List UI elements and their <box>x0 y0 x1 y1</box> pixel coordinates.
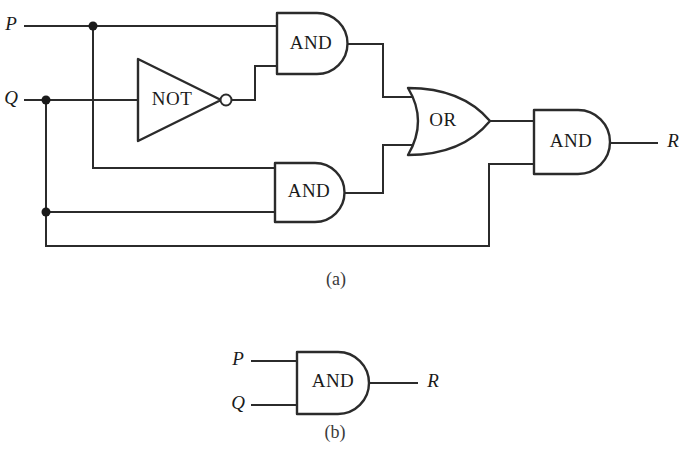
part-b-input-p-label: P <box>231 348 244 369</box>
junction-dot-q-lower <box>42 208 51 217</box>
part-b-input-q-label: Q <box>231 392 245 413</box>
part-a-input-q-label: Q <box>4 87 18 108</box>
or-gate-label: OR <box>429 109 456 130</box>
and-gate-b-label: AND <box>312 370 355 391</box>
part-b-output-r-label: R <box>426 370 439 391</box>
not-gate-bubble-icon <box>221 95 232 106</box>
part-a-input-p-label: P <box>4 13 17 34</box>
not-gate-label: NOT <box>152 88 193 109</box>
and-gate-output-label: AND <box>550 130 593 151</box>
part-a-group: P Q NOT AND <box>4 13 679 290</box>
logic-circuit-figure: P Q NOT AND <box>0 0 685 470</box>
part-a-output-r-label: R <box>666 130 679 151</box>
and-gate-bottom-label: AND <box>288 180 331 201</box>
part-b-caption: (b) <box>325 422 346 443</box>
part-a-caption: (a) <box>326 269 346 290</box>
and-gate-top-label: AND <box>290 32 333 53</box>
junction-dot-q-upper <box>42 96 51 105</box>
junction-dot-p <box>89 22 98 31</box>
wire-and-top-to-or <box>348 44 412 97</box>
circuit-diagram-canvas: P Q NOT AND <box>0 0 685 470</box>
part-b-group: P Q AND R (b) <box>231 348 439 443</box>
wire-not-to-and-top <box>232 66 277 100</box>
wire-and-bottom-to-or <box>345 145 412 193</box>
